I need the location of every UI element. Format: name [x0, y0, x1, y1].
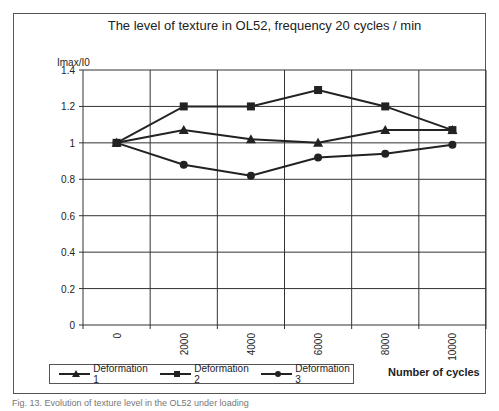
circle-marker-icon — [261, 369, 292, 379]
x-tick-label: 0 — [112, 333, 123, 339]
circle-marker-icon — [180, 161, 188, 169]
figure-caption: Fig. 13. Evolution of texture level in t… — [12, 398, 249, 408]
y-tick-label: 0.6 — [61, 211, 75, 222]
square-marker-icon — [314, 86, 322, 94]
square-marker-icon — [160, 369, 191, 379]
plot-area: 00.20.40.60.811.21.402000400060008000100… — [0, 0, 499, 411]
y-tick-label: 0 — [69, 320, 75, 331]
circle-marker-icon — [113, 139, 121, 147]
circle-marker-icon — [314, 153, 322, 161]
square-marker-icon — [381, 102, 389, 110]
x-tick-label: 2000 — [179, 333, 190, 356]
circle-marker-icon — [247, 172, 255, 180]
square-marker-icon — [448, 126, 456, 134]
x-tick-label: 6000 — [313, 333, 324, 356]
y-tick-label: 1.4 — [61, 65, 75, 76]
y-tick-label: 0.2 — [61, 284, 75, 295]
x-tick-label: 8000 — [380, 333, 391, 356]
square-marker-icon — [247, 102, 255, 110]
x-axis-title: Number of cycles — [388, 366, 480, 378]
legend-label: Deformation 2 — [194, 363, 252, 385]
legend-item-deformation-3: Deformation 3 — [261, 363, 353, 385]
y-tick-label: 1 — [69, 138, 75, 149]
y-tick-label: 1.2 — [61, 101, 75, 112]
y-tick-label: 0.8 — [61, 174, 75, 185]
x-tick-label: 4000 — [246, 333, 257, 356]
legend: Deformation 1 Deformation 2 Deformation … — [49, 364, 354, 384]
legend-item-deformation-1: Deformation 1 — [59, 363, 151, 385]
circle-marker-icon — [448, 141, 456, 149]
y-tick-label: 0.4 — [61, 247, 75, 258]
circle-marker-icon — [381, 150, 389, 158]
legend-item-deformation-2: Deformation 2 — [160, 363, 252, 385]
legend-label: Deformation 3 — [295, 363, 353, 385]
triangle-marker-icon — [59, 369, 90, 379]
x-tick-label: 10000 — [447, 333, 458, 361]
square-marker-icon — [180, 102, 188, 110]
legend-label: Deformation 1 — [93, 363, 151, 385]
